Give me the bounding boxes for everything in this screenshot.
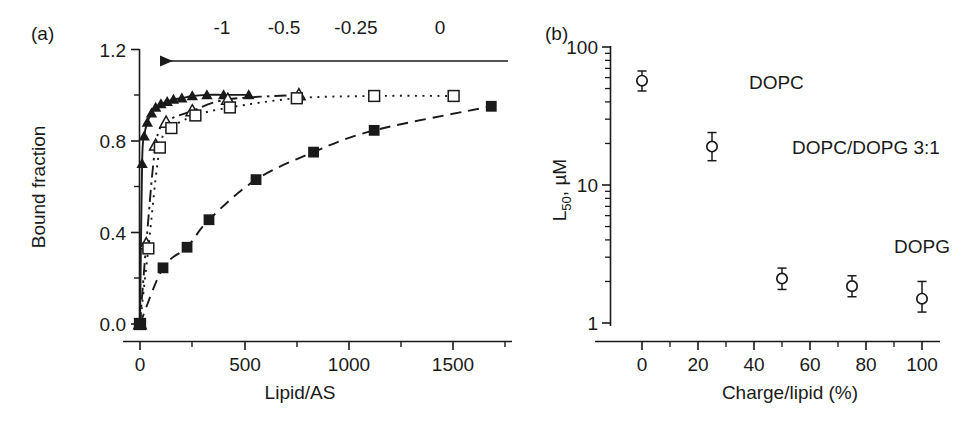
- panel-b-xlabel: Charge/lipid (%): [722, 382, 858, 403]
- data-point-3: [847, 276, 857, 297]
- panel-b-y-ticks: [602, 47, 611, 323]
- data-point-0: [637, 71, 647, 91]
- data-point-2: [777, 268, 787, 289]
- x-tick-label-80: 80: [855, 354, 876, 375]
- marker-open-circle: [707, 141, 717, 151]
- panel-b-x-axis: Charge/lipid (%) 020406080100: [595, 342, 940, 404]
- ylabel-main: L: [549, 211, 570, 222]
- marker-open-circle: [777, 273, 787, 283]
- marker-open-circle: [847, 281, 857, 291]
- x-tick-label-0: 0: [637, 354, 648, 375]
- x-tick-label-20: 20: [687, 354, 708, 375]
- panel-b-annotations: DOPCDOPC/DOPG 3:1DOPG: [749, 72, 950, 257]
- panel-b-x-ticks: 020406080100: [637, 342, 938, 376]
- y-tick-label-10: 10: [577, 175, 598, 196]
- marker-open-circle: [637, 75, 647, 85]
- x-tick-label-60: 60: [799, 354, 820, 375]
- panel-b-label: (b): [545, 23, 568, 44]
- panel-b-series-layer: [637, 71, 927, 312]
- svg-text:L50, µM: L50, µM: [549, 159, 574, 221]
- annotation-1: DOPC/DOPG 3:1: [792, 137, 940, 158]
- y-tick-label-1: 1: [587, 313, 598, 334]
- panel-b-chart: (b) 100 10 1 L50, µM Charge/lipid (%) 02…: [0, 0, 975, 422]
- annotation-2: DOPG: [894, 236, 950, 257]
- data-point-4: [917, 281, 927, 312]
- y-tick-label-100: 100: [566, 37, 598, 58]
- data-point-1: [707, 133, 717, 161]
- marker-open-circle: [917, 293, 927, 303]
- panel-b-ylabel: L50, µM: [549, 159, 574, 221]
- ylabel-sub: 50: [559, 196, 574, 210]
- figure-container: (a) -1 -0.5 -0.25 0 1.2 0.8 0.4 0.0 Boun: [0, 0, 975, 422]
- annotation-0: DOPC: [749, 72, 804, 93]
- x-tick-label-100: 100: [906, 354, 938, 375]
- panel-b-y-axis: 100 10 1 L50, µM: [549, 37, 611, 334]
- ylabel-unit: , µM: [549, 159, 570, 196]
- x-tick-label-40: 40: [743, 354, 764, 375]
